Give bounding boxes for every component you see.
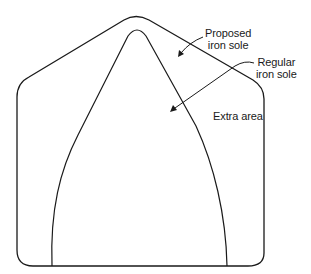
proposed-iron-sole-outline [17,17,264,267]
regular-iron-sole-outline [52,30,227,266]
extra-area-label: Extra area [213,110,263,122]
proposed-label-line2: iron sole [205,39,251,51]
regular-label-line2: iron sole [256,68,297,80]
regular-iron-sole-label: Regular iron sole [256,56,297,80]
regular-label-line1: Regular [256,56,297,68]
extra-area-text: Extra area [213,110,263,122]
proposed-iron-sole-label: Proposed iron sole [205,27,251,51]
iron-sole-diagram [0,0,311,274]
proposed-label-line1: Proposed [205,27,251,39]
proposed-arrow [178,37,203,57]
regular-arrow [170,62,254,112]
